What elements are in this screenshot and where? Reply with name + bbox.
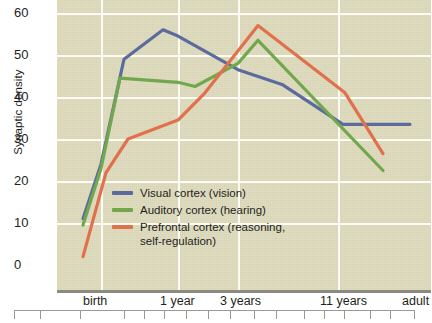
ruler-tick bbox=[304, 310, 305, 319]
ruler-tick bbox=[276, 310, 277, 319]
legend-item: Visual cortex (vision) bbox=[112, 186, 285, 200]
ruler-tick bbox=[370, 310, 371, 319]
ruler-tick bbox=[14, 310, 15, 319]
x-axis-line bbox=[57, 290, 431, 293]
x-tick-label: 3 years bbox=[220, 294, 261, 308]
ruler-tick bbox=[230, 310, 231, 319]
x-tick-label: 11 years bbox=[320, 294, 367, 308]
y-tick-label: 60 bbox=[14, 5, 52, 20]
ruler-tick bbox=[40, 310, 41, 319]
legend-label: Prefrontal cortex (reasoning, self-regul… bbox=[140, 220, 285, 248]
y-tick-label: 50 bbox=[14, 47, 52, 62]
ruler-tick bbox=[144, 310, 145, 319]
ruler-tick bbox=[124, 310, 125, 319]
scale-ruler bbox=[14, 310, 414, 322]
y-tick-label: 40 bbox=[14, 89, 52, 104]
ruler-tick bbox=[344, 310, 345, 319]
ruler-tick bbox=[324, 310, 325, 319]
ruler-baseline bbox=[14, 310, 414, 311]
ruler-tick bbox=[208, 310, 209, 319]
x-tick-label: birth bbox=[83, 294, 107, 308]
ruler-tick bbox=[186, 310, 187, 319]
legend-color-swatch bbox=[112, 225, 133, 229]
legend-label: Auditory cortex (hearing) bbox=[140, 203, 266, 217]
ruler-tick bbox=[80, 310, 81, 319]
chart-legend: Visual cortex (vision)Auditory cortex (h… bbox=[112, 186, 285, 251]
ruler-tick bbox=[254, 310, 255, 319]
legend-label: Visual cortex (vision) bbox=[140, 186, 246, 200]
legend-item: Prefrontal cortex (reasoning, self-regul… bbox=[112, 220, 285, 248]
x-tick-label: adult bbox=[402, 294, 429, 308]
y-tick-label: 20 bbox=[14, 173, 52, 188]
ruler-tick bbox=[414, 310, 415, 319]
ruler-tick bbox=[164, 310, 165, 319]
legend-color-swatch bbox=[112, 208, 133, 212]
y-tick-label: 10 bbox=[14, 215, 52, 230]
y-tick-label: 30 bbox=[14, 131, 52, 146]
legend-color-swatch bbox=[112, 191, 133, 195]
chart-figure: Synaptic density 0102030405060 birth1 ye… bbox=[0, 0, 432, 323]
y-tick-label: 0 bbox=[14, 257, 52, 272]
ruler-tick bbox=[390, 310, 391, 319]
x-tick-label: 1 year bbox=[160, 294, 195, 308]
legend-item: Auditory cortex (hearing) bbox=[112, 203, 285, 217]
